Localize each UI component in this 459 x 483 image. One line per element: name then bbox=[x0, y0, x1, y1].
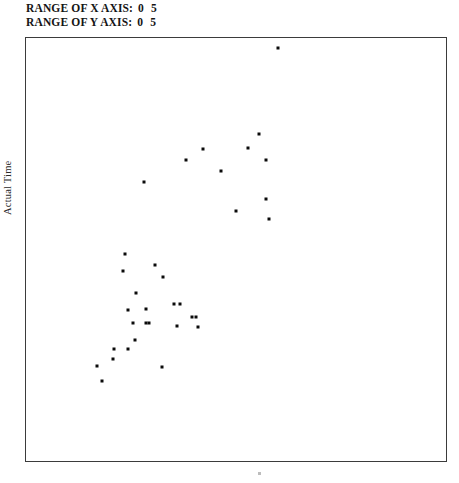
data-point bbox=[265, 158, 268, 161]
range-of-x-axis-min: 0 bbox=[138, 2, 144, 14]
data-point bbox=[265, 197, 268, 200]
range-of-x-axis-max: 5 bbox=[151, 2, 157, 14]
range-of-x-axis-line: RANGE OF X AXIS:05 bbox=[26, 1, 326, 15]
data-point bbox=[194, 316, 197, 319]
data-point bbox=[113, 348, 116, 351]
data-point bbox=[235, 210, 238, 213]
range-of-y-axis-line: RANGE OF Y AXIS:05 bbox=[26, 15, 326, 29]
axis-artifact-mark bbox=[258, 472, 261, 475]
data-point bbox=[184, 158, 187, 161]
data-point bbox=[267, 218, 270, 221]
data-point bbox=[202, 147, 205, 150]
data-point bbox=[100, 379, 103, 382]
data-point bbox=[148, 322, 151, 325]
data-point bbox=[112, 357, 115, 360]
data-point bbox=[161, 366, 164, 369]
range-readout-block: RANGE OF X AXIS:05 RANGE OF Y AXIS:05 bbox=[26, 1, 326, 29]
range-of-y-axis-min: 0 bbox=[137, 16, 143, 28]
data-point bbox=[95, 365, 98, 368]
data-point bbox=[131, 322, 134, 325]
data-point bbox=[145, 307, 148, 310]
range-of-y-axis-max: 5 bbox=[150, 16, 156, 28]
y-axis-title: Actual Time bbox=[2, 161, 13, 215]
data-point bbox=[176, 324, 179, 327]
range-of-y-axis-label: RANGE OF Y AXIS: bbox=[26, 16, 132, 28]
data-point bbox=[121, 269, 124, 272]
data-point bbox=[142, 180, 145, 183]
data-point bbox=[197, 326, 200, 329]
scatter-plot-page: RANGE OF X AXIS:05 RANGE OF Y AXIS:05 Ac… bbox=[0, 0, 459, 483]
data-point bbox=[219, 169, 222, 172]
data-point bbox=[178, 303, 181, 306]
data-point bbox=[134, 339, 137, 342]
data-point bbox=[277, 47, 280, 50]
data-point bbox=[154, 263, 157, 266]
data-point bbox=[257, 133, 260, 136]
scatter-plot-area bbox=[26, 38, 446, 461]
data-point bbox=[127, 348, 130, 351]
data-point bbox=[127, 308, 130, 311]
data-point bbox=[124, 252, 127, 255]
plot-frame bbox=[25, 37, 447, 462]
data-point bbox=[172, 303, 175, 306]
data-point bbox=[246, 146, 249, 149]
range-of-x-axis-label: RANGE OF X AXIS: bbox=[26, 2, 133, 14]
data-point bbox=[135, 292, 138, 295]
data-point bbox=[161, 275, 164, 278]
